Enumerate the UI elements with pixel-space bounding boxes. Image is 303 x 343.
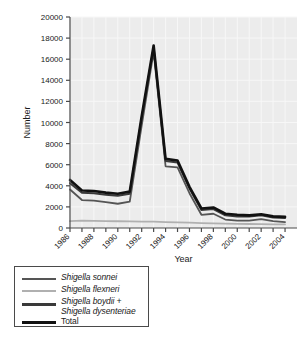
legend-label-shigella-sonnei: Shigella sonnei — [61, 272, 117, 282]
legend-label-shigella-dysenteriae: Shigella dysenteriae — [61, 306, 136, 316]
y-axis-tick-label: 8000 — [45, 140, 63, 149]
x-axis-tick-label: 2002 — [244, 232, 263, 251]
legend-swatch-shigella-sonnei — [22, 278, 56, 280]
x-axis-tick-label: 1996 — [172, 232, 191, 251]
x-axis-title: Year — [174, 254, 192, 264]
x-axis-tick-label: 1988 — [76, 232, 95, 251]
y-axis-title: Number — [22, 106, 32, 138]
y-axis-tick-label: 20000 — [41, 13, 64, 22]
y-axis-tick-label: 12000 — [41, 97, 64, 106]
y-axis-tick-label: 4000 — [45, 182, 63, 191]
legend-swatch-total — [22, 321, 56, 324]
x-axis-tick-label: 1992 — [124, 232, 143, 251]
x-axis-tick-label: 1990 — [100, 232, 119, 251]
x-axis-tick-label: 2000 — [220, 232, 239, 251]
y-axis-tick-label: 0 — [59, 224, 64, 233]
chart-legend: Shigella sonnei Shigella flexneri Shigel… — [14, 266, 149, 327]
legend-item-shigella-sonnei: Shigella sonnei — [15, 273, 148, 284]
y-axis-tick-label: 2000 — [45, 203, 63, 212]
legend-item-total: Total — [15, 317, 148, 328]
y-axis-tick-label: 16000 — [41, 55, 64, 64]
legend-item-shigella-flexneri: Shigella flexneri — [15, 285, 148, 296]
legend-label-shigella-flexneri: Shigella flexneri — [61, 284, 119, 294]
x-axis-tick-label: 2004 — [268, 232, 287, 251]
y-axis-tick-label: 18000 — [41, 34, 64, 43]
legend-label-shigella-boydii: Shigella boydii + — [61, 296, 121, 306]
y-axis-tick-label: 10000 — [41, 119, 64, 128]
x-axis-tick-label: 1998 — [196, 232, 215, 251]
x-axis-tick-label: 1986 — [52, 232, 71, 251]
x-axis-tick-label: 1994 — [148, 232, 167, 251]
legend-swatch-shigella-boydii — [22, 303, 56, 306]
legend-label-total: Total — [61, 316, 78, 326]
legend-swatch-shigella-flexneri — [22, 290, 56, 292]
shigella-line-chart-figure: 0200040006000800010000120001400016000180… — [0, 0, 303, 343]
y-axis-tick-label: 14000 — [41, 76, 64, 85]
y-axis-tick-label: 6000 — [45, 161, 63, 170]
